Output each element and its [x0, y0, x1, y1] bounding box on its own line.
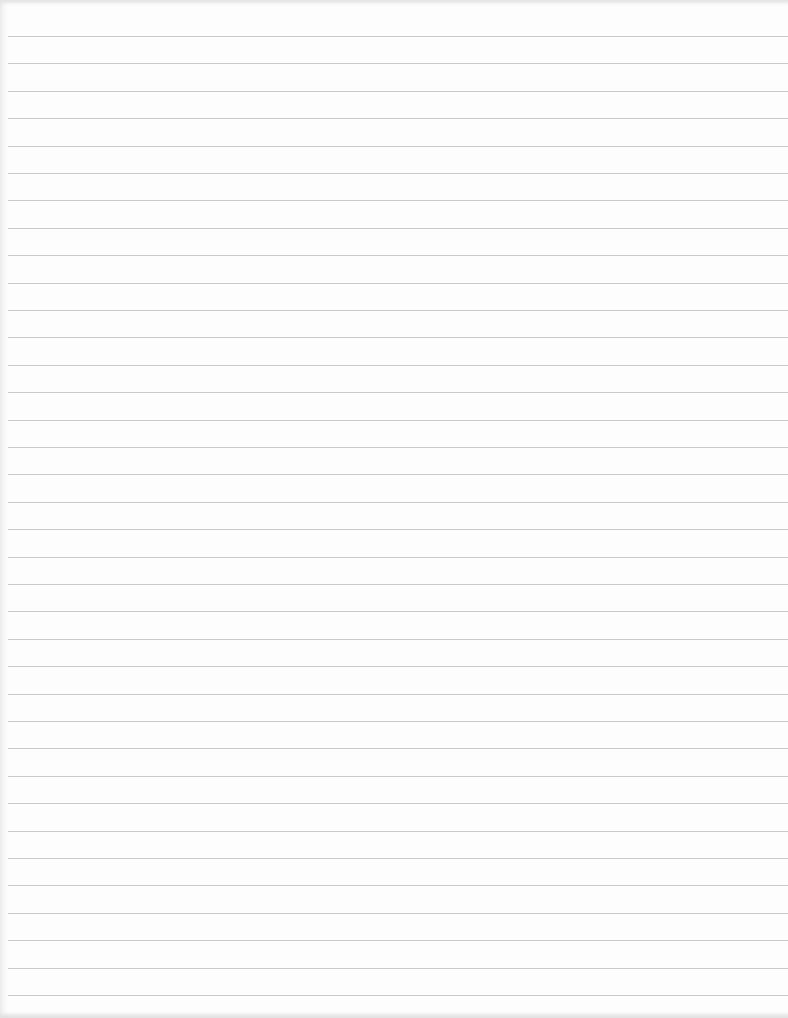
- ruled-line: [8, 584, 788, 585]
- lined-paper-page: [0, 0, 788, 1018]
- scan-edge-top: [0, 0, 788, 4]
- ruled-line: [8, 748, 788, 749]
- ruled-line: [8, 392, 788, 393]
- ruled-line: [8, 529, 788, 530]
- ruled-line: [8, 803, 788, 804]
- ruled-line: [8, 913, 788, 914]
- ruled-line: [8, 831, 788, 832]
- ruled-line: [8, 557, 788, 558]
- ruled-line: [8, 420, 788, 421]
- ruled-line: [8, 447, 788, 448]
- ruled-line: [8, 36, 788, 37]
- ruled-line: [8, 283, 788, 284]
- ruled-line: [8, 474, 788, 475]
- ruled-line: [8, 118, 788, 119]
- ruled-line: [8, 91, 788, 92]
- ruled-line: [8, 885, 788, 886]
- ruled-line: [8, 940, 788, 941]
- ruled-line: [8, 365, 788, 366]
- ruled-line: [8, 694, 788, 695]
- ruled-line: [8, 639, 788, 640]
- ruled-line: [8, 721, 788, 722]
- ruled-line: [8, 968, 788, 969]
- ruled-line: [8, 611, 788, 612]
- ruled-line: [8, 502, 788, 503]
- ruled-line: [8, 666, 788, 667]
- ruled-line: [8, 776, 788, 777]
- ruled-line: [8, 173, 788, 174]
- ruled-line: [8, 995, 788, 996]
- ruled-line: [8, 63, 788, 64]
- ruled-line: [8, 310, 788, 311]
- ruled-line: [8, 858, 788, 859]
- scan-edge-bottom: [0, 1012, 788, 1018]
- ruled-line: [8, 146, 788, 147]
- ruled-line: [8, 255, 788, 256]
- ruled-line: [8, 200, 788, 201]
- ruled-line: [8, 337, 788, 338]
- ruled-line: [8, 228, 788, 229]
